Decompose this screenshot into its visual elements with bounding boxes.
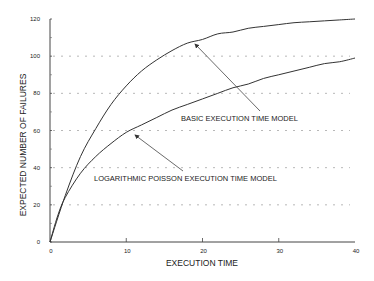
y-tick-label: 120	[30, 16, 41, 22]
label-log-poisson-model: LOGARITHMIC POISSON EXECUTION TIME MODEL	[94, 174, 277, 183]
y-tick-label: 20	[33, 202, 40, 208]
y-axis-label: EXPECTED NUMBER OF FAILURES	[18, 73, 28, 216]
y-tick-label: 100	[30, 53, 41, 59]
arrow-log-poisson	[135, 135, 183, 171]
y-tick-label: 0	[37, 239, 41, 245]
label-basic-model: BASIC EXECUTION TIME MODEL	[181, 114, 298, 123]
y-tick-label: 40	[33, 165, 40, 171]
arrow-basic	[195, 44, 260, 111]
y-tick-label: 80	[33, 90, 40, 96]
x-tick-label: 0	[49, 248, 53, 254]
log-poisson-model-curve	[50, 58, 355, 242]
x-tick-label: 40	[353, 248, 360, 254]
x-tick-label: 30	[276, 248, 283, 254]
annotation-log-poisson: LOGARITHMIC POISSON EXECUTION TIME MODEL	[94, 135, 277, 183]
x-tick-label: 20	[200, 248, 207, 254]
y-tick-label: 60	[33, 128, 40, 134]
failures-chart: 020406080100120010203040 BASIC EXECUTION…	[0, 0, 374, 281]
x-axis-label: EXECUTION TIME	[166, 258, 238, 268]
x-tick-label: 10	[124, 248, 131, 254]
ticks: 020406080100120010203040	[30, 16, 360, 254]
